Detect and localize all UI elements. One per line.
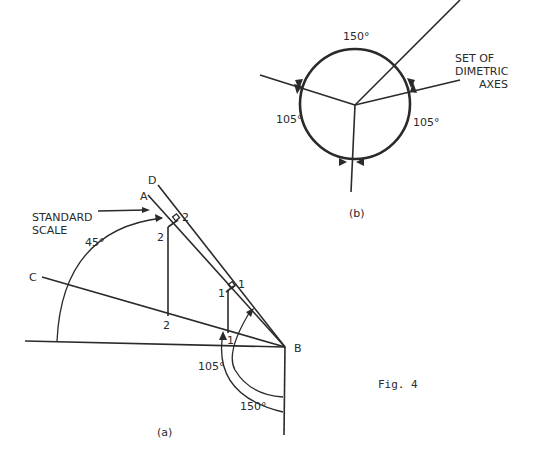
angle-label-left: 105° (276, 113, 303, 126)
tick-1-left: 1 (218, 287, 225, 300)
point-c-label: C (29, 271, 37, 284)
vertical-axis (351, 105, 355, 192)
vertical-line (284, 347, 285, 435)
arc-150 (232, 310, 283, 397)
angle-label-105: 105° (198, 360, 225, 373)
left-axis (260, 75, 355, 105)
figure-caption: Fig. 4 (378, 378, 418, 391)
callout-arrow-line (98, 210, 146, 211)
line-db (158, 185, 285, 347)
arrow-icon (155, 214, 163, 222)
tick-2-left: 2 (157, 231, 164, 244)
arc-45 (57, 218, 162, 341)
angle-label-right: 105° (413, 116, 440, 129)
horizontal-line (25, 341, 285, 347)
angle-label-150: 150° (240, 400, 267, 413)
title-line-2: DIMETRIC (455, 65, 509, 78)
arrow-icon (142, 207, 150, 213)
angle-label-45: 45° (85, 236, 105, 249)
part-b-label: (b) (349, 207, 365, 220)
point-d-label: D (148, 174, 156, 187)
angle-label-top: 150° (343, 30, 370, 43)
part-a-label: (a) (157, 426, 172, 439)
point-b-label: B (294, 342, 302, 355)
part-b-dimetric-circle: 150° 105° 105° SET OF DIMETRIC AXES (b) (260, 0, 509, 220)
title-line-3: AXES (479, 78, 508, 91)
callout-line-1: STANDARD (32, 211, 93, 224)
tick-1-upper: 1 (238, 278, 245, 291)
arrow-icon (219, 331, 227, 340)
tick-1-lower: 1 (227, 334, 234, 347)
point-a-label: A (140, 190, 148, 203)
part-a-construction: D A C B STANDARD SCALE 45° 105° 150° 2 2… (25, 174, 302, 439)
right-angle-mark-2 (173, 214, 180, 221)
title-line-1: SET OF (455, 52, 494, 65)
callout-line-2: SCALE (32, 224, 67, 237)
tick-2-lower: 2 (163, 319, 170, 332)
tick-2-upper: 2 (182, 211, 189, 224)
dimetric-axes-figure: 150° 105° 105° SET OF DIMETRIC AXES (b) (0, 0, 540, 461)
